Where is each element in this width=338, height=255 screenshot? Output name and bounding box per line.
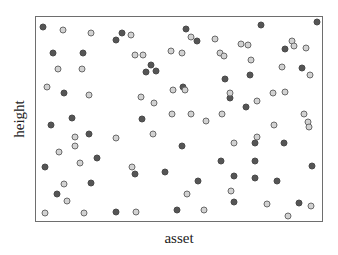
dark-data-point xyxy=(314,18,321,25)
light-data-point xyxy=(308,203,315,210)
dark-data-point xyxy=(173,207,180,214)
light-data-point xyxy=(76,160,83,167)
light-data-point xyxy=(285,213,292,220)
dark-data-point xyxy=(47,121,54,128)
dark-data-point xyxy=(161,169,168,176)
dark-data-point xyxy=(182,25,189,32)
light-data-point xyxy=(63,198,70,205)
dark-data-point xyxy=(143,69,150,76)
light-data-point xyxy=(43,84,50,91)
dark-data-point xyxy=(148,61,155,68)
dark-data-point xyxy=(282,45,289,52)
light-data-point xyxy=(71,133,78,140)
light-data-point xyxy=(264,201,271,208)
light-data-point xyxy=(41,210,48,217)
light-data-point xyxy=(55,148,62,155)
dark-data-point xyxy=(94,154,101,161)
light-data-point xyxy=(168,111,175,118)
dark-data-point xyxy=(49,49,56,56)
light-data-point xyxy=(80,210,87,217)
light-data-point xyxy=(150,130,157,137)
light-data-point xyxy=(188,111,195,118)
light-data-point xyxy=(220,52,227,59)
light-data-point xyxy=(302,44,309,51)
y-axis-label: height xyxy=(11,100,28,138)
light-data-point xyxy=(211,35,218,42)
light-data-point xyxy=(129,163,136,170)
dark-data-point xyxy=(243,104,250,111)
light-data-point xyxy=(270,90,277,97)
dark-data-point xyxy=(85,130,92,137)
light-data-point xyxy=(85,92,92,99)
light-data-point xyxy=(306,72,313,79)
dark-data-point xyxy=(68,114,75,121)
light-data-point xyxy=(282,89,289,96)
dark-data-point xyxy=(194,37,201,44)
dark-data-point xyxy=(251,175,258,182)
light-data-point xyxy=(279,63,286,70)
dark-data-point xyxy=(258,21,265,28)
dark-data-point xyxy=(246,72,253,79)
light-data-point xyxy=(184,191,191,198)
dark-data-point xyxy=(296,200,303,207)
light-data-point xyxy=(138,94,145,101)
dark-data-point xyxy=(112,209,119,216)
light-data-point xyxy=(132,51,139,58)
light-data-point xyxy=(182,87,189,94)
light-data-point xyxy=(169,87,176,94)
dark-data-point xyxy=(153,68,160,75)
light-data-point xyxy=(306,123,313,130)
light-data-point xyxy=(253,133,260,140)
light-data-point xyxy=(218,111,225,118)
dark-data-point xyxy=(88,180,95,187)
light-data-point xyxy=(128,31,135,38)
dark-data-point xyxy=(231,173,238,180)
x-axis-label: asset xyxy=(35,230,323,247)
dark-data-point xyxy=(251,139,258,146)
light-data-point xyxy=(112,134,119,141)
light-data-point xyxy=(87,29,94,36)
dark-data-point xyxy=(139,116,146,123)
light-data-point xyxy=(248,56,255,63)
dark-data-point xyxy=(178,142,185,149)
dark-data-point xyxy=(60,90,67,97)
light-data-point xyxy=(291,42,298,49)
dark-data-point xyxy=(194,178,201,185)
light-data-point xyxy=(301,111,308,118)
light-data-point xyxy=(178,49,185,56)
light-data-point xyxy=(238,40,245,47)
light-data-point xyxy=(60,181,67,188)
light-data-point xyxy=(200,207,207,214)
dark-data-point xyxy=(251,157,258,164)
dark-data-point xyxy=(119,29,126,36)
dark-data-point xyxy=(217,157,224,164)
plot-area xyxy=(35,16,323,222)
light-data-point xyxy=(140,51,147,58)
dark-data-point xyxy=(274,178,281,185)
light-data-point xyxy=(226,90,233,97)
dark-data-point xyxy=(281,139,288,146)
light-data-point xyxy=(202,118,209,125)
light-data-point xyxy=(78,66,85,73)
light-data-point xyxy=(231,139,238,146)
dark-data-point xyxy=(41,163,48,170)
dark-data-point xyxy=(221,76,228,83)
dark-data-point xyxy=(54,191,61,198)
light-data-point xyxy=(271,122,278,129)
dark-data-point xyxy=(299,65,306,72)
light-data-point xyxy=(59,26,66,33)
light-data-point xyxy=(254,98,261,105)
light-data-point xyxy=(54,66,61,73)
light-data-point xyxy=(167,47,174,54)
light-data-point xyxy=(133,209,140,216)
dark-data-point xyxy=(113,37,120,44)
light-data-point xyxy=(151,100,158,107)
light-data-point xyxy=(245,41,252,48)
light-data-point xyxy=(71,142,78,149)
light-data-point xyxy=(188,33,195,40)
dark-data-point xyxy=(79,49,86,56)
dark-data-point xyxy=(230,199,237,206)
light-data-point xyxy=(227,188,234,195)
dark-data-point xyxy=(131,171,138,178)
dark-data-point xyxy=(308,162,315,169)
